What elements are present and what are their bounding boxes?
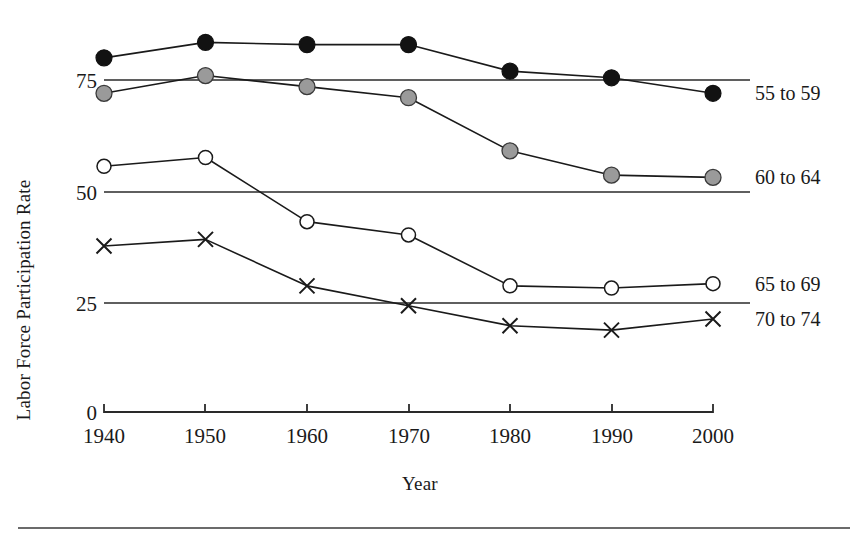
data-point-filled-gray-circle (705, 169, 721, 185)
series-label-65-to-69: 65 to 69 (755, 273, 821, 295)
x-tick-label-1980: 1980 (489, 424, 531, 448)
series-label-layer: 55 to 5960 to 6465 to 6970 to 74 (755, 82, 821, 330)
data-point-cross (401, 298, 416, 313)
line-chart: Labor Force Participation Rate 75 50 25 … (0, 0, 864, 541)
data-point-filled-black-circle (705, 85, 721, 101)
x-tick-label-1970: 1970 (388, 424, 430, 448)
data-point-open-circle (706, 277, 720, 291)
data-point-filled-black-circle (604, 70, 620, 86)
data-point-filled-gray-circle (401, 90, 417, 106)
series-label-60-to-64: 60 to 64 (755, 166, 821, 188)
x-tick-label-1950: 1950 (184, 424, 226, 448)
data-point-filled-gray-circle (299, 79, 315, 95)
data-point-open-circle (402, 228, 416, 242)
data-point-filled-gray-circle (96, 85, 112, 101)
data-point-filled-black-circle (198, 34, 214, 50)
y-tick-label-0: 0 (87, 401, 98, 425)
data-point-filled-black-circle (299, 37, 315, 53)
x-tick-label-1990: 1990 (591, 424, 633, 448)
series-label-55-to-59: 55 to 59 (755, 82, 821, 104)
data-point-open-circle (605, 281, 619, 295)
series-65-to-69 (97, 150, 720, 295)
data-point-filled-black-circle (96, 50, 112, 66)
x-tick-label-2000: 2000 (692, 424, 734, 448)
series-line (104, 157, 713, 288)
y-tick-label-50: 50 (76, 181, 97, 205)
y-tick-label-25: 25 (76, 292, 97, 316)
data-point-open-circle (503, 279, 517, 293)
data-point-cross (300, 278, 315, 293)
x-tick-label-1940: 1940 (83, 424, 125, 448)
y-axis-title: Labor Force Participation Rate (13, 180, 34, 421)
data-point-open-circle (300, 215, 314, 229)
x-axis-title: Year (402, 473, 438, 494)
series-70-to-74 (97, 232, 721, 338)
data-point-filled-black-circle (401, 37, 417, 53)
series-line (104, 239, 713, 330)
data-point-filled-gray-circle (502, 143, 518, 159)
data-point-open-circle (199, 150, 213, 164)
series-60-to-64 (96, 68, 721, 186)
data-point-filled-black-circle (502, 63, 518, 79)
figure-container: Labor Force Participation Rate 75 50 25 … (0, 0, 864, 541)
x-tick-label-1960: 1960 (286, 424, 328, 448)
y-tick-label-75: 75 (76, 69, 97, 93)
data-point-filled-gray-circle (198, 68, 214, 84)
data-point-filled-gray-circle (604, 167, 620, 183)
series-label-70-to-74: 70 to 74 (755, 308, 821, 330)
data-point-open-circle (97, 159, 111, 173)
